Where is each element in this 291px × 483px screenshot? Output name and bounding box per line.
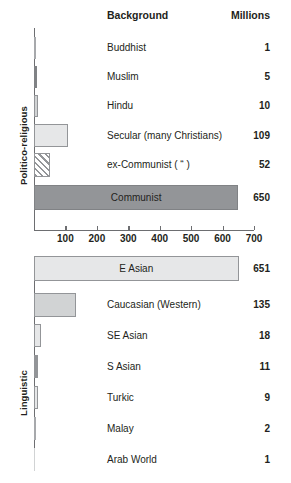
table-row: Turkic 9 [0, 385, 291, 414]
axis-tick-label: 100 [57, 233, 74, 244]
row-value: 5 [190, 71, 270, 82]
table-header: Background Millions [0, 9, 291, 25]
bar [34, 66, 37, 88]
row-value: 135 [190, 299, 270, 310]
table-row: ex-Communist ( “ ) 52 [0, 152, 291, 181]
bar [34, 386, 38, 409]
table-row: Secular (many Christians) 109 [0, 123, 291, 152]
axis-tick [160, 226, 161, 230]
axis-tick-label: 700 [246, 233, 263, 244]
row-value: 52 [190, 159, 270, 170]
axis-tick [97, 226, 98, 230]
axis-tick-label: 600 [214, 233, 231, 244]
table-row: Malay 2 [0, 416, 291, 445]
axis-tick [128, 226, 129, 230]
bar [34, 293, 76, 317]
axis-tick-label: 400 [151, 233, 168, 244]
row-label: Turkic [107, 392, 134, 403]
bar [34, 355, 38, 378]
row-label: Hindu [107, 100, 133, 111]
table-row: Arab World 1 [0, 447, 291, 476]
row-label: SE Asian [107, 330, 148, 341]
x-axis [34, 230, 254, 231]
row-value: 1 [190, 42, 270, 53]
axis-tick [254, 226, 255, 230]
bar [34, 95, 38, 117]
bar [34, 37, 36, 59]
axis-tick [223, 226, 224, 230]
table-row: Communist 650 [0, 185, 291, 215]
row-value: 109 [190, 130, 270, 141]
bar [34, 448, 35, 471]
bar [34, 324, 41, 347]
axis-tick [65, 226, 66, 230]
header-millions: Millions [190, 9, 270, 21]
table-row: S Asian 11 [0, 354, 291, 383]
table-row: Hindu 10 [0, 94, 291, 123]
bar [34, 417, 36, 440]
header-background: Background [107, 9, 168, 21]
row-value: 9 [190, 392, 270, 403]
row-label: ex-Communist ( “ ) [107, 159, 190, 170]
row-value: 650 [190, 192, 270, 203]
axis-tick-label: 200 [89, 233, 106, 244]
axis-tick-label: 300 [120, 233, 137, 244]
table-row: Caucasian (Western) 135 [0, 292, 291, 321]
axis-tick [191, 226, 192, 230]
row-value: 10 [190, 100, 270, 111]
row-label: Caucasian (Western) [107, 299, 201, 310]
axis-tick-label: 500 [183, 233, 200, 244]
row-label: S Asian [107, 361, 141, 372]
table-row: SE Asian 18 [0, 323, 291, 352]
row-value: 1 [190, 454, 270, 465]
row-label: Arab World [107, 454, 157, 465]
row-label: Buddhist [107, 42, 146, 53]
bar [34, 153, 50, 177]
row-value: 651 [190, 263, 270, 274]
row-value: 11 [190, 361, 270, 372]
row-value: 2 [190, 423, 270, 434]
row-label: Malay [107, 423, 134, 434]
bar-chart: Politico-religious Linguistic Background… [0, 0, 291, 483]
table-row: E Asian 651 [0, 256, 291, 286]
table-row: Muslim 5 [0, 65, 291, 94]
row-value: 18 [190, 330, 270, 341]
row-label: Muslim [107, 71, 139, 82]
bar [34, 124, 68, 147]
table-row: Buddhist 1 [0, 36, 291, 65]
